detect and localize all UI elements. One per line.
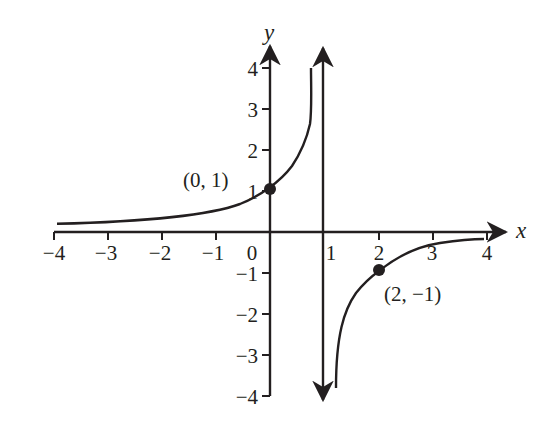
svg-text:−3: −3 xyxy=(236,344,258,368)
svg-text:2: 2 xyxy=(248,139,259,163)
svg-text:4: 4 xyxy=(482,241,493,265)
function-graph: y x −4 −3 −2 −1 0 1 2 3 4 4 3 2 1 −1 −2 … xyxy=(0,0,558,428)
svg-text:−4: −4 xyxy=(43,241,66,265)
svg-text:2: 2 xyxy=(374,241,385,265)
svg-text:−1: −1 xyxy=(202,241,224,265)
x-axis-title: x xyxy=(515,218,527,243)
y-axis xyxy=(262,46,270,396)
svg-text:−2: −2 xyxy=(149,241,171,265)
svg-text:−1: −1 xyxy=(236,262,258,286)
curve-right xyxy=(336,239,484,388)
svg-text:1: 1 xyxy=(326,241,337,265)
svg-text:−4: −4 xyxy=(236,385,259,409)
point-label-2-neg1: (2, −1) xyxy=(384,282,441,306)
point-label-0-1: (0, 1) xyxy=(183,168,229,192)
svg-text:3: 3 xyxy=(427,241,438,265)
curve-left xyxy=(57,68,311,224)
point-0-1 xyxy=(264,183,276,195)
y-axis-title: y xyxy=(262,20,275,45)
x-axis xyxy=(54,232,506,240)
svg-text:4: 4 xyxy=(248,57,259,81)
point-2-neg1 xyxy=(373,264,385,276)
svg-text:−3: −3 xyxy=(95,241,117,265)
svg-text:3: 3 xyxy=(248,98,259,122)
svg-text:−2: −2 xyxy=(236,303,258,327)
svg-text:1: 1 xyxy=(248,180,259,204)
x-tick-labels: −4 −3 −2 −1 0 1 2 3 4 xyxy=(43,241,493,265)
